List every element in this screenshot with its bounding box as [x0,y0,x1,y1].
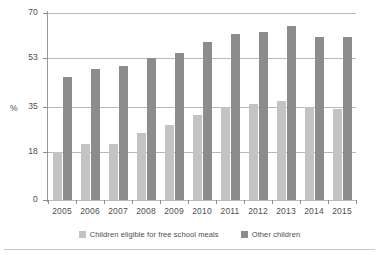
gridline [48,200,356,201]
bar [287,26,296,200]
bar [165,125,174,200]
legend-label: Children eligible for free school meals [90,230,219,239]
y-tick-label: 53 [28,53,38,62]
bar [109,144,118,200]
x-tick-label: 2010 [188,206,216,216]
x-tick-mark [160,200,161,204]
x-tick-mark [48,200,49,204]
bar [231,34,240,200]
bar [249,104,258,200]
x-tick-mark [76,200,77,204]
series-a-swatch-icon [79,231,86,238]
bar [305,107,314,201]
bar [343,37,352,200]
x-tick-label: 2013 [272,206,300,216]
chart-legend: Children eligible for free school meals … [0,228,379,240]
x-tick-mark [132,200,133,204]
bar [119,66,128,200]
bar [63,77,72,200]
bar [81,144,90,200]
x-tick-mark [300,200,301,204]
x-tick-label: 2008 [132,206,160,216]
bar [277,101,286,200]
x-tick-label: 2007 [104,206,132,216]
bar [147,58,156,200]
bar [193,115,202,200]
legend-label: Other children [252,230,301,239]
bar [259,32,268,200]
x-tick-label: 2006 [76,206,104,216]
bar-chart: % 018355370 2005200620072008200920102011… [0,0,379,255]
plot-area [48,13,356,200]
x-tick-label: 2015 [328,206,356,216]
x-tick-label: 2012 [244,206,272,216]
x-tick-mark [272,200,273,204]
y-axis-title: % [10,103,18,113]
footer-divider [4,249,375,250]
legend-item[interactable]: Children eligible for free school meals [79,230,219,239]
x-tick-label: 2014 [300,206,328,216]
legend-item[interactable]: Other children [241,230,301,239]
bar [175,53,184,200]
y-tick-label: 70 [28,8,38,17]
y-tick-label: 0 [33,195,38,204]
bar [53,152,62,200]
x-tick-mark [328,200,329,204]
x-tick-mark [188,200,189,204]
bar [221,107,230,201]
x-tick-label: 2009 [160,206,188,216]
gridline [48,13,356,14]
x-tick-mark [216,200,217,204]
y-tick-label: 35 [28,102,38,111]
bar [315,37,324,200]
bar [333,109,342,200]
x-tick-label: 2005 [48,206,76,216]
x-tick-mark [104,200,105,204]
bar [91,69,100,200]
bar [203,42,212,200]
y-tick-label: 18 [28,147,38,156]
x-tick-mark [244,200,245,204]
x-tick-label: 2011 [216,206,244,216]
series-b-swatch-icon [241,231,248,238]
bar [137,133,146,200]
x-tick-mark [356,200,357,204]
